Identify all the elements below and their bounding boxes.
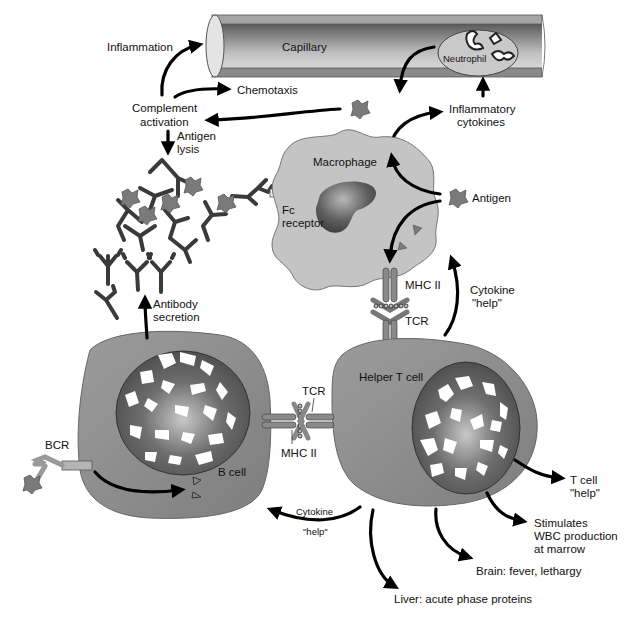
antigen-lysis-label: Antigen lysis bbox=[177, 130, 219, 155]
antigen-to-complement-arrow bbox=[210, 109, 340, 120]
macrophage-label: Macrophage bbox=[313, 156, 377, 168]
immune-response-diagram: Capillary Neutrophil Inflammation Chemot… bbox=[0, 0, 636, 618]
brain-label: Brain: fever, lethargy bbox=[476, 565, 582, 577]
cytokine-help-left-label-1: Cytokine bbox=[296, 506, 333, 517]
chemotaxis-label: Chemotaxis bbox=[237, 84, 298, 96]
tcr-mid-label: TCR bbox=[302, 385, 326, 397]
capillary-label: Capillary bbox=[282, 41, 327, 53]
brain-arrow bbox=[436, 509, 468, 557]
cytokine-help-up-arrow bbox=[445, 260, 458, 335]
helper-t-cell-label: Helper T cell bbox=[359, 371, 423, 383]
antigen-label: Antigen bbox=[472, 192, 511, 204]
liver-label: Liver: acute phase proteins bbox=[394, 593, 532, 605]
antibody-secretion-arrow bbox=[145, 300, 147, 338]
free-antigen-icon bbox=[351, 100, 370, 119]
antigen-icon bbox=[449, 189, 468, 208]
antibody-secretion-label: Antibody secretion bbox=[153, 298, 201, 323]
bcr-label: BCR bbox=[45, 439, 69, 451]
inflammatory-cytokines-label: Inflammatory cytokines bbox=[449, 103, 519, 128]
stimulates-wbc-label: Stimulates WBC production at marrow bbox=[534, 517, 621, 555]
neutrophil: Neutrophil bbox=[438, 30, 518, 76]
complement-activation-label: Complement activation bbox=[132, 102, 200, 128]
liver-arrow bbox=[371, 510, 394, 586]
wbc-arrow bbox=[487, 493, 522, 521]
b-cell-label: B cell bbox=[218, 466, 246, 478]
inflammation-label: Inflammation bbox=[107, 41, 173, 53]
cytokine-help-left-label-2: "help" bbox=[303, 526, 328, 537]
mhc-ii-mid-label: MHC II bbox=[281, 447, 317, 459]
helper-t-cell: Helper T cell bbox=[332, 338, 537, 506]
chemotaxis-arrow bbox=[175, 89, 226, 97]
mhc-ii-top-label: MHC II bbox=[405, 279, 441, 291]
tcr-top-label: TCR bbox=[405, 315, 429, 327]
antibody-antigen-complexes bbox=[118, 160, 287, 262]
neutrophil-label: Neutrophil bbox=[443, 53, 486, 64]
cytokine-help-up-label: Cytokine "help" bbox=[470, 284, 518, 309]
capillary: Capillary Neutrophil bbox=[206, 15, 545, 77]
t-cell-help-label: T cell "help" bbox=[570, 474, 600, 499]
mhc-tcr-synapse-mid bbox=[262, 398, 334, 444]
